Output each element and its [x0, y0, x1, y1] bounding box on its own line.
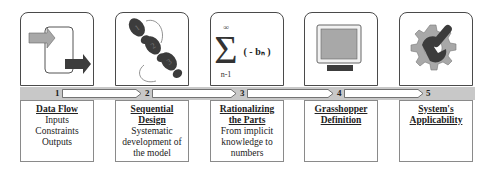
step-body-line: From implicit [211, 126, 283, 137]
step-title: Applicability [400, 115, 472, 126]
arrow-2-to-3-icon [152, 89, 237, 98]
step-3-description: Rationalizing the Parts From implicit kn… [210, 100, 284, 162]
step-2-icon-panel: 1 2 3 [115, 12, 189, 86]
step-1-icon-panel [20, 12, 94, 86]
sum-term: ( - bₙ ) [243, 46, 270, 58]
step-5-icon-panel [399, 12, 473, 86]
step-3-icon-panel: ∞ Σ n-1 ( - bₙ ) [210, 12, 284, 86]
step-title: Grasshopper [305, 104, 377, 115]
arrow-4-to-5-icon [344, 89, 424, 98]
step-body-line: development of [116, 137, 188, 148]
step-1-description: Data Flow Inputs Constraints Outputs [20, 100, 94, 162]
arrow-1-to-2-icon [62, 89, 142, 98]
arrow-3-to-4-icon [247, 89, 334, 98]
step-title: Rationalizing [211, 104, 283, 115]
step-title: the Parts [211, 115, 283, 126]
step-4-description: Grasshopper Definition [304, 100, 378, 162]
step-title: Data Flow [21, 104, 93, 115]
step-3-number: 3 [240, 87, 245, 100]
gear-wrench-icon [400, 13, 472, 85]
sum-lower-limit: n-1 [221, 70, 232, 79]
step-4-number: 4 [337, 87, 342, 100]
step-body-line: Constraints [21, 126, 93, 137]
step-5-description: System's Applicability [399, 100, 473, 162]
step-body-line: the model [116, 148, 188, 159]
step-body-line: Inputs [21, 115, 93, 126]
step-5-number: 5 [426, 87, 431, 100]
step-body-line: Systematic [116, 126, 188, 137]
step-2-number: 2 [145, 87, 150, 100]
footsteps-icon: 1 2 3 [116, 13, 188, 85]
step-body-line: Outputs [21, 137, 93, 148]
summation-icon: ∞ Σ n-1 ( - bₙ ) [211, 13, 283, 85]
step-title: Design [116, 115, 188, 126]
step-title: Definition [305, 115, 377, 126]
step-title: Sequential [116, 104, 188, 115]
monitor-icon [305, 13, 377, 85]
step-body-line: knowledge to [211, 137, 283, 148]
step-2-description: Sequential Design Systematic development… [115, 100, 189, 162]
svg-text:Σ: Σ [214, 27, 237, 72]
data-flow-arrows-icon [21, 13, 93, 85]
step-title: System's [400, 104, 472, 115]
step-body-line: numbers [211, 148, 283, 159]
step-4-icon-panel [304, 12, 378, 86]
step-1-number: 1 [55, 87, 60, 100]
